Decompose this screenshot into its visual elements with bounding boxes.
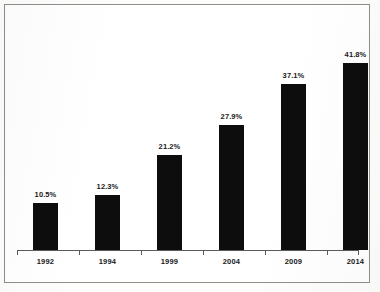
- x-axis-label-1994: 1994: [79, 257, 136, 266]
- bar-chart-figure: 10.5% 12.3% 21.2% 27.9% 37.1% 41.8%: [0, 0, 380, 292]
- x-axis-label-1999: 1999: [141, 257, 198, 266]
- x-axis-label-1992: 1992: [17, 257, 74, 266]
- x-axis-label-2014: 2014: [327, 257, 380, 266]
- x-axis-labels: 1992 1994 1999 2004 2009 2014: [17, 0, 359, 292]
- x-axis-label-2004: 2004: [203, 257, 260, 266]
- x-axis-label-2009: 2009: [265, 257, 322, 266]
